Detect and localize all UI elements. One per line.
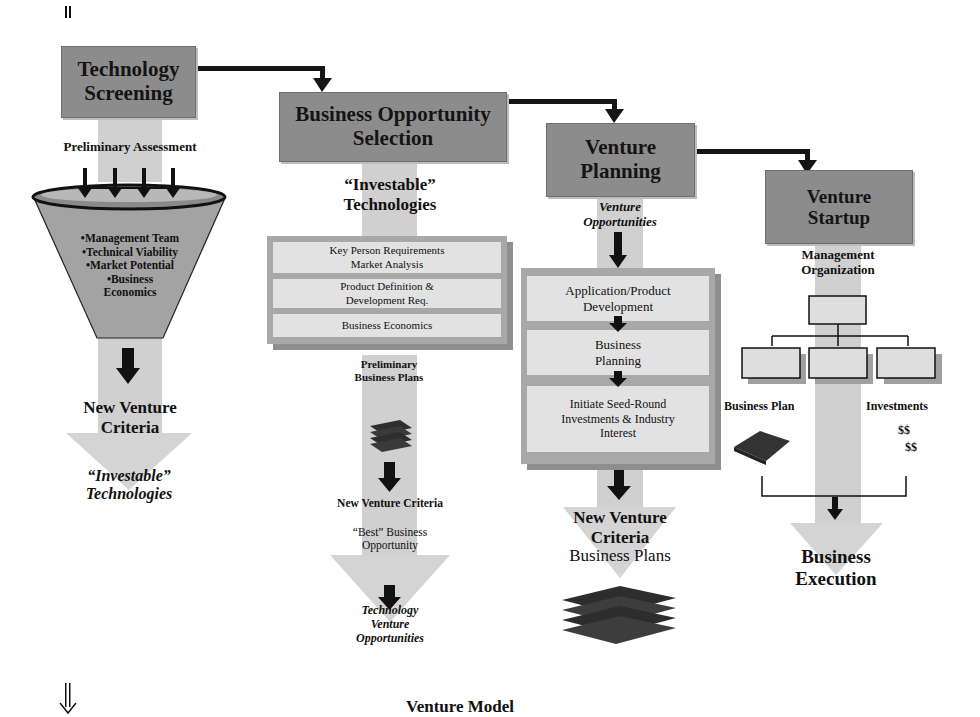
top-left-marker-icon <box>65 6 71 18</box>
stage2-activity-row: Key Person Requirements Market Analysis <box>273 242 501 273</box>
connector-arrow-2-icon <box>507 99 624 123</box>
criteria-item: •Market Potential <box>60 259 200 273</box>
business-plan-label: Business Plan <box>724 400 814 414</box>
best-business-opportunity-label: “Best” Business Opportunity <box>350 526 430 552</box>
criteria-item: •Management Team <box>60 232 200 246</box>
stage2-business-plans-icon <box>370 420 412 452</box>
stage2-output-label: Technology Venture Opportunities <box>345 604 435 645</box>
stage3-inner-arrows <box>521 268 715 464</box>
money-label-1: $$ <box>894 424 914 438</box>
stage-venture-planning: Venture Planning <box>546 123 695 197</box>
criteria-item: •Business <box>60 273 200 287</box>
stage3-input-label: Venture Opportunities <box>570 200 670 230</box>
stage2-shaft-lower <box>362 355 417 555</box>
stage-title: Business Opportunity Selection <box>293 103 493 150</box>
stage-title: Venture Planning <box>571 136 671 183</box>
stage-title: Technology Screening <box>74 58 184 105</box>
preliminary-assessment-label: Preliminary Assessment <box>30 140 230 155</box>
stage4-business-plan-icon <box>734 431 790 465</box>
diagram-caption: Venture Model <box>380 697 540 717</box>
stage-technology-screening: Technology Screening <box>61 46 196 118</box>
criteria-item: Economics <box>60 286 200 300</box>
stage3-inner-arrow-icon <box>609 316 627 332</box>
stage2-activity-row: Product Definition & Development Req. <box>273 279 501 308</box>
stage3-output-label: Business Plans <box>550 546 690 566</box>
stage2-activities-panel: Key Person Requirements Market Analysis … <box>267 236 507 344</box>
stage1-output-label: “Investable” Technologies <box>74 467 184 504</box>
stage3-business-plans-icon <box>562 586 676 644</box>
management-organization-label: Management Organization <box>778 248 898 278</box>
stage-title: Venture Startup <box>794 186 884 229</box>
stage-venture-startup: Venture Startup <box>765 170 913 244</box>
criteria-item: •Technical Viability <box>60 246 200 260</box>
stage-business-opportunity-selection: Business Opportunity Selection <box>279 92 507 162</box>
stage2-filter-label: New Venture Criteria <box>320 497 460 510</box>
connector-arrow-1-icon <box>195 66 332 92</box>
stage3-activities-panel: Application/Product Development Business… <box>521 268 715 464</box>
money-label-2: $$ <box>901 441 921 455</box>
stage2-activity-row: Business Economics <box>273 314 501 337</box>
investments-label: Investments <box>866 400 946 414</box>
stage2-input-label: “Investable” Technologies <box>330 175 450 214</box>
stage1-filter-label: New Venture Criteria <box>70 398 190 437</box>
stage3-filter-label: New Venture Criteria <box>560 508 680 547</box>
stage4-output-label: Business Execution <box>786 546 886 590</box>
preliminary-business-plans-label: Preliminary Business Plans <box>348 358 430 383</box>
bottom-left-arrow-icon <box>60 683 76 713</box>
funnel-criteria-list: •Management Team •Technical Viability •M… <box>60 232 200 300</box>
stage3-inner-arrow-icon <box>609 371 627 387</box>
